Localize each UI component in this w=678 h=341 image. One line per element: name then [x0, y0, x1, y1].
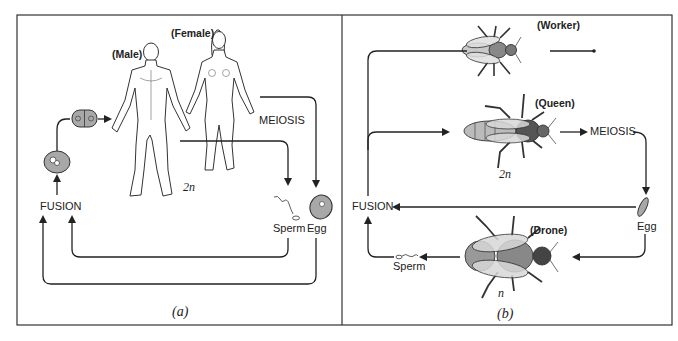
outer-frame — [17, 15, 672, 325]
arrow-zygote-to-embryo — [57, 119, 70, 151]
drone-label: (Drone) — [530, 224, 567, 236]
queen-ploidy-label: 2n — [499, 167, 511, 181]
female-figure — [186, 30, 254, 170]
sperm-label-a: Sperm — [273, 222, 305, 234]
egg-label-b: Egg — [637, 220, 657, 232]
fusion-label-b: FUSION — [352, 200, 394, 212]
male-label: (Male) — [112, 48, 142, 60]
male-figure — [112, 43, 190, 196]
sperm-cell-b — [396, 255, 418, 259]
egg-cell-a — [307, 192, 336, 222]
arrow-sperm-to-fusion — [368, 218, 394, 257]
worker-label: (Worker) — [537, 19, 580, 31]
caption-b: (b) — [497, 306, 514, 322]
caption-a: (a) — [172, 304, 189, 320]
panel-a-human-life-cycle: (Male) (Female) MEIOSIS 2n FUSION Sperm … — [40, 27, 335, 320]
line-worker-to-fusion — [368, 51, 467, 196]
arrow-egg-to-drone — [574, 234, 645, 257]
queen-label: (Queen) — [535, 97, 575, 109]
life-cycle-diagram: (Male) (Female) MEIOSIS 2n FUSION Sperm … — [0, 0, 678, 341]
drone-ploidy-label: n — [498, 286, 504, 300]
zygote-cell — [44, 151, 70, 173]
sperm-cell-a — [274, 196, 300, 220]
arrow-meiosis-to-egg — [633, 132, 646, 193]
sperm-label-b: Sperm — [393, 260, 425, 272]
female-label: (Female) — [171, 27, 214, 39]
worker-terminal-dot — [592, 49, 596, 53]
panel-b-bee-life-cycle: (Worker) (Queen) (Drone) MEIOSIS 2n n FU… — [352, 19, 657, 322]
egg-label-a: Egg — [307, 222, 327, 234]
arrow-fusion-to-queen — [368, 132, 448, 150]
worker-bee — [462, 26, 521, 76]
fusion-label-a: FUSION — [40, 200, 82, 212]
meiosis-label-a: MEIOSIS — [259, 114, 305, 126]
arrow-sperm-to-fusion — [72, 217, 288, 257]
two-cell-embryo — [72, 110, 97, 127]
ploidy-label-a: 2n — [183, 180, 195, 194]
meiosis-label-b: MEIOSIS — [590, 125, 636, 137]
egg-cell-b — [636, 196, 651, 217]
